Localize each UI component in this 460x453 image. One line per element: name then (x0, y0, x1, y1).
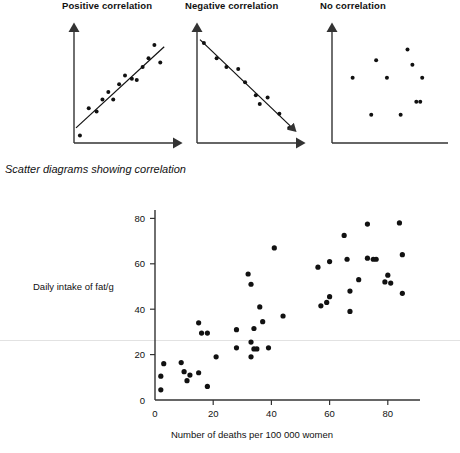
data-point (418, 100, 422, 104)
data-point (161, 361, 166, 366)
y-tick-label: 0 (140, 395, 145, 406)
data-point (152, 43, 156, 47)
data-point (374, 257, 379, 262)
x-tick-label: 60 (324, 408, 335, 419)
data-point (187, 372, 192, 377)
data-point (327, 259, 332, 264)
mini-chart-plot-positive (62, 12, 192, 160)
figure-caption: Scatter diagrams showing correlation (5, 163, 186, 175)
main-axis-tick-labels: 020406080020406080 (134, 213, 393, 419)
data-point (78, 134, 82, 138)
data-point (251, 326, 256, 331)
data-point (400, 291, 405, 296)
data-point (214, 354, 219, 359)
data-point (179, 360, 184, 365)
y-tick-label: 20 (134, 349, 145, 360)
data-point (100, 98, 104, 102)
data-point (420, 76, 424, 80)
x-tick-label: 20 (208, 408, 219, 419)
mini-charts-row: Positive correlation Negative correlatio… (0, 0, 460, 162)
x-tick-label: 80 (383, 408, 394, 419)
data-point (414, 100, 418, 104)
data-point (205, 384, 210, 389)
x-tick-label: 40 (266, 408, 277, 419)
data-point (184, 378, 189, 383)
data-point (369, 113, 373, 117)
mini-chart-title-none: No correlation (320, 0, 386, 11)
data-point (106, 90, 110, 94)
mini-trend-line-negative (200, 40, 293, 129)
data-point (272, 245, 277, 250)
data-point (280, 313, 285, 318)
data-point (347, 309, 352, 314)
data-point (123, 74, 127, 78)
main-scatter-chart: 020406080020406080 Daily intake of fat/g… (0, 196, 460, 453)
data-point (410, 63, 414, 67)
data-point (257, 304, 262, 309)
mini-chart-title-negative: Negative correlation (185, 0, 278, 11)
mini-chart-plot-negative (185, 12, 315, 160)
data-point (397, 220, 402, 225)
data-point (318, 303, 323, 308)
data-point (199, 330, 204, 335)
data-point (246, 271, 251, 276)
mini-chart-plot-none (320, 12, 455, 160)
data-point (258, 102, 262, 106)
data-point (135, 78, 139, 82)
data-point (260, 319, 265, 324)
data-point (266, 345, 271, 350)
data-point (400, 252, 405, 257)
y-axis-label: Daily intake of fat/g (33, 281, 114, 292)
data-point (196, 320, 201, 325)
data-point (117, 82, 121, 86)
data-point (347, 288, 352, 293)
x-tick-label: 0 (152, 408, 157, 419)
data-point (111, 98, 115, 102)
mini-trend-line-positive (76, 47, 164, 128)
mini-chart-no-correlation: No correlation (320, 0, 460, 162)
data-point (374, 58, 378, 62)
data-point (385, 76, 389, 80)
data-point (324, 300, 329, 305)
y-tick-label: 80 (134, 213, 145, 224)
data-point (158, 374, 163, 379)
data-point (236, 67, 240, 71)
data-point (158, 387, 163, 392)
data-point (234, 327, 239, 332)
data-point (248, 354, 253, 359)
mini-data-points-none (351, 47, 425, 116)
data-point (365, 221, 370, 226)
data-point (351, 76, 355, 80)
data-point (234, 345, 239, 350)
data-point (342, 233, 347, 238)
main-chart-plot-area: 020406080020406080 (0, 196, 460, 431)
data-point (406, 47, 410, 51)
data-point (266, 95, 270, 99)
main-data-points (158, 220, 405, 392)
data-point (399, 113, 403, 117)
data-point (388, 280, 393, 285)
data-point (248, 282, 253, 287)
mini-chart-title-positive: Positive correlation (62, 0, 152, 11)
data-point (327, 294, 332, 299)
mini-data-points-positive (78, 43, 162, 137)
data-point (356, 277, 361, 282)
data-point (344, 257, 349, 262)
x-axis-label: Number of deaths per 100 000 women (0, 429, 460, 440)
data-point (158, 61, 162, 65)
y-tick-label: 40 (134, 304, 145, 315)
data-point (248, 340, 253, 345)
y-tick-label: 60 (134, 258, 145, 269)
data-point (315, 265, 320, 270)
mini-chart-negative-correlation: Negative correlation (185, 0, 335, 162)
data-point (382, 279, 387, 284)
data-point (87, 106, 91, 110)
data-point (385, 273, 390, 278)
data-point (182, 369, 187, 374)
data-point (196, 370, 201, 375)
data-point (254, 346, 259, 351)
data-point (365, 256, 370, 261)
data-point (205, 330, 210, 335)
